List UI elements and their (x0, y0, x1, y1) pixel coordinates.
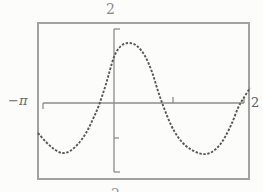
calculator-graph-figure: 2 −π 2 2 (0, 0, 263, 192)
sine-curve-plot (0, 0, 263, 192)
ymax-label: 2 (106, 2, 115, 16)
xmin-label: −π (8, 94, 27, 107)
ymin-label-cutoff: 2 (111, 187, 120, 192)
xmax-label: 2 (251, 96, 259, 109)
